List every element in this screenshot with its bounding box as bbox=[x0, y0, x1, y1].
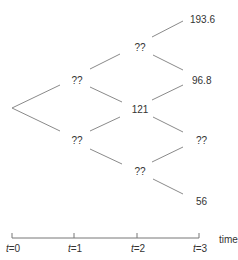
tick-label-t1: t=1 bbox=[68, 243, 83, 254]
node-t2-uu: ?? bbox=[134, 42, 146, 53]
node-t3-uud: 96.8 bbox=[192, 75, 212, 86]
tick-label-t2: t=2 bbox=[131, 243, 146, 254]
binomial-tree-diagram: ?? ?? ?? 121 ?? 193.6 96.8 ?? 56 t=0 t=1… bbox=[0, 0, 238, 260]
edge-t2dd-down bbox=[153, 179, 183, 194]
edge-t2dd-up bbox=[152, 147, 183, 162]
edge-root-down bbox=[12, 108, 60, 131]
node-t1-up: ?? bbox=[71, 75, 83, 86]
node-t3-udd: ?? bbox=[196, 135, 208, 146]
edge-t2ud-up bbox=[152, 85, 183, 100]
edge-t2uu-up bbox=[152, 21, 183, 37]
node-t2-ud: 121 bbox=[132, 104, 149, 115]
edge-root-up bbox=[12, 85, 60, 108]
tick-label-t3: t=3 bbox=[193, 243, 208, 254]
node-t2-dd: ?? bbox=[134, 166, 146, 177]
edge-t2uu-down bbox=[153, 55, 183, 70]
edge-t1up-down bbox=[90, 87, 122, 102]
edge-t1up-up bbox=[90, 54, 120, 69]
node-t1-down: ?? bbox=[71, 135, 83, 146]
edge-t2ud-down bbox=[153, 117, 183, 132]
node-t3-ddd: 56 bbox=[196, 196, 208, 207]
tick-label-t0: t=0 bbox=[6, 243, 21, 254]
node-t3-uuu: 193.6 bbox=[190, 14, 215, 25]
edge-t1down-up bbox=[90, 117, 120, 131]
edge-t1down-down bbox=[90, 149, 122, 164]
time-axis-label: time bbox=[219, 234, 238, 245]
